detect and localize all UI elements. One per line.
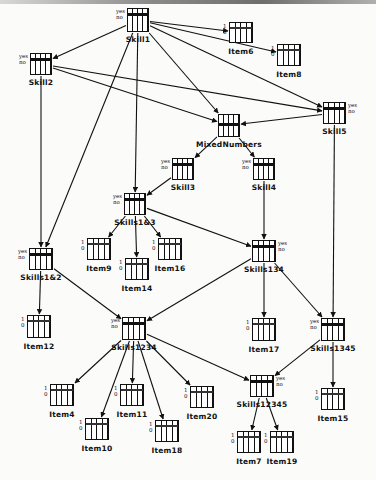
state-indicator-bar [51,389,73,391]
one-zero-axis-labels: 10 [152,239,156,251]
item-probability-bars[interactable] [229,22,253,43]
skill-probability-bars[interactable] [30,53,52,75]
skill-probability-bars[interactable] [218,114,240,137]
edge-skill5-to-skills1345 [333,125,334,317]
one-zero-axis-labels: 10 [315,389,319,401]
skill-probability-bars[interactable] [321,318,345,341]
state-indicator-bar [128,13,148,16]
edge-layer [0,0,376,480]
node-label: Item12 [24,342,55,351]
node-label: Skills1234 [111,343,156,352]
state-indicator-bar [271,436,293,438]
skill-probability-bars[interactable] [172,158,194,180]
edge-skill5-to-mixednumbers [241,114,322,124]
no-label: no [310,325,319,331]
one-zero-axis-labels: 10 [231,432,235,444]
one-zero-axis-labels: 10 [271,45,275,57]
bar-column [103,419,109,439]
state-indicator-bar [254,163,274,166]
node-label: Skills1&2 [20,273,61,282]
no-label: no [116,15,125,21]
state-indicator-bar [156,425,178,427]
zero-label: 0 [315,395,319,401]
no-label: no [348,109,357,115]
item-probability-bars[interactable] [270,431,294,453]
yes-no-state-labels: yesno [348,103,357,114]
yes-no-state-labels: yesno [161,159,170,170]
skill-probability-bars[interactable] [252,240,276,262]
node-label: Skills1345 [310,344,355,353]
item-probability-bars[interactable] [87,238,111,260]
item-probability-bars[interactable] [125,258,149,280]
bar-column [138,385,144,405]
skill-probability-bars[interactable] [250,375,274,397]
yes-no-state-labels: yesno [19,54,28,65]
skill-probability-bars[interactable] [122,317,146,340]
item-probability-bars[interactable] [158,238,182,260]
edge-skill1-to-skills1-3 [135,33,138,192]
bar-column [268,376,274,396]
bar-column [47,249,53,269]
item-probability-bars[interactable] [237,431,261,453]
yes-no-state-labels: yesno [116,9,125,20]
bar-column [68,385,74,405]
one-zero-axis-labels: 10 [114,385,118,397]
zero-label: 0 [149,427,153,433]
item-probability-bars[interactable] [27,315,51,338]
zero-label: 0 [231,438,235,444]
state-indicator-bar [31,58,51,61]
skill-probability-bars[interactable] [29,248,53,270]
edge-skill1-to-mixednumbers [149,33,218,113]
no-label: no [113,200,122,206]
zero-label: 0 [44,391,48,397]
skill-probability-bars[interactable] [124,193,146,215]
bar-column [188,159,193,179]
zero-label: 0 [79,425,83,431]
bar-column [105,239,111,259]
item-probability-bars[interactable] [321,388,345,410]
item-probability-bars[interactable] [50,384,74,406]
zero-label: 0 [119,265,123,271]
no-label: no [111,324,120,330]
no-label: no [161,165,170,171]
one-zero-axis-labels: 10 [246,319,250,331]
bar-column [255,432,261,452]
item-probability-bars[interactable] [190,386,214,408]
skill-probability-bars[interactable] [253,158,275,180]
yes-no-state-labels: yesno [113,194,122,205]
edge-skills1234-to-item18 [138,341,163,419]
node-label: Item9 [86,264,112,273]
edge-skill1-to-item6 [150,21,228,30]
edge-skills1-2-to-skills1234 [54,269,121,319]
node-label: Skill2 [29,78,54,87]
yes-no-state-labels: yesno [278,241,287,252]
edge-skill1-to-skill2 [53,25,126,58]
state-indicator-bar [251,380,273,383]
yes-no-state-labels: yesno [111,318,120,329]
zero-label: 0 [81,245,85,251]
state-indicator-bar [159,243,181,245]
state-indicator-bar [253,245,275,248]
bar-column [143,259,149,279]
item-probability-bars[interactable] [252,318,276,341]
state-indicator-bar [125,198,145,201]
skill-probability-bars[interactable] [127,8,149,32]
item-probability-bars[interactable] [120,384,144,406]
bar-column [46,54,51,74]
node-label: MixedNumbers [196,140,262,149]
item-probability-bars[interactable] [85,418,109,440]
skill-probability-bars[interactable] [323,102,346,124]
bar-column [269,159,274,179]
node-label: Item10 [82,444,113,453]
bar-column [140,194,145,214]
state-indicator-bar [88,243,110,245]
item-probability-bars[interactable] [155,420,179,442]
zero-label: 0 [246,325,250,331]
state-indicator-bar [278,49,300,51]
bar-column [339,389,345,409]
state-indicator-bar [28,320,50,322]
one-zero-axis-labels: 10 [119,259,123,271]
state-indicator-bar [322,323,344,326]
item-probability-bars[interactable] [277,44,301,66]
edge-skill1-to-item8 [150,23,276,52]
